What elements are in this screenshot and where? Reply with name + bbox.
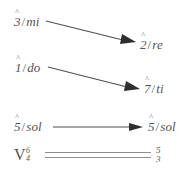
scale-degree-number-7: ^7 — [144, 80, 151, 95]
solfege-ti: ti — [156, 81, 164, 96]
scale-degree-number-2: ^2 — [140, 36, 147, 51]
solfege-mi: mi — [26, 14, 39, 29]
scale-degree-label-5-sol-right: ^5/sol — [148, 118, 176, 133]
roman-numeral-block: V 6 4 — [14, 146, 30, 164]
figured-bass-six-four: 6 4 — [26, 147, 30, 164]
arrow-mi-to-re — [46, 19, 138, 46]
scale-degree-label-2-re: ^2/re — [140, 36, 163, 51]
roman-numeral-five: V — [14, 146, 26, 164]
figure-lower-right: 3 — [156, 155, 161, 164]
caret-icon: ^ — [149, 114, 153, 122]
caret-icon: ^ — [145, 76, 149, 84]
solfege-re: re — [152, 37, 163, 52]
figured-bass-five-three: 5 3 — [156, 146, 161, 165]
voice-leading-diagram: ^3/mi ^2/re ^1/do ^7/ti ^5/sol ^5/sol V — [0, 0, 185, 176]
caret-icon: ^ — [15, 9, 19, 17]
arrow-do-to-ti — [48, 65, 144, 94]
solfege-sol-right: sol — [160, 119, 176, 134]
scale-degree-number-3: ^3 — [14, 13, 21, 28]
scale-degree-label-5-sol-left: ^5/sol — [14, 118, 42, 133]
solfege-do: do — [27, 60, 40, 75]
caret-icon: ^ — [141, 32, 145, 40]
scale-degree-number-1: ^1 — [15, 59, 22, 74]
solfege-sol: sol — [26, 119, 42, 134]
scale-degree-number-5-right: ^5 — [148, 118, 155, 133]
scale-degree-number-5: ^5 — [14, 118, 21, 133]
prolongation-double-line — [45, 152, 151, 158]
scale-degree-label-3-mi: ^3/mi — [14, 13, 40, 28]
scale-degree-label-7-ti: ^7/ti — [144, 80, 164, 95]
caret-icon: ^ — [16, 55, 20, 63]
scale-degree-label-1-do: ^1/do — [15, 59, 41, 74]
figure-lower: 4 — [26, 155, 30, 163]
arrow-sol-to-sol — [53, 120, 145, 134]
caret-icon: ^ — [15, 114, 19, 122]
